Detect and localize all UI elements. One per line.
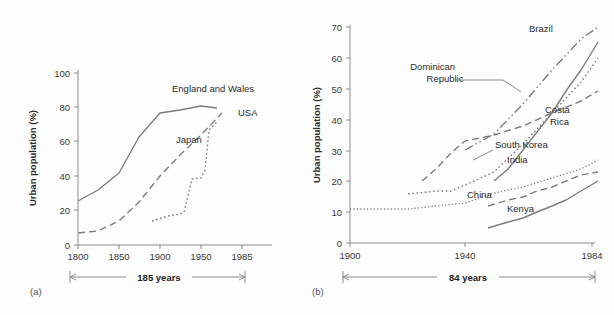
- costa-rica-word-1: Costa: [545, 104, 571, 115]
- leader-south-korea: [473, 150, 493, 160]
- series-label-japan: Japan: [176, 134, 202, 145]
- series-label-india: India: [507, 154, 528, 165]
- panel-a-label: (a): [30, 286, 42, 297]
- panel-b: 70 60 50 40 30 20 10 0 1900 1940 1984 Ur…: [307, 0, 614, 315]
- panel-a-ytick-0: 0: [65, 240, 70, 251]
- series-label-brazil: Brazil: [529, 23, 553, 34]
- series-line-kenya: [488, 181, 598, 228]
- panel-b-xtick-1984: 1984: [581, 250, 602, 261]
- panel-b-y-axis-title: Urban population (%): [311, 87, 322, 183]
- series-label-south-korea: South Korea: [495, 139, 549, 150]
- panel-b-ytick-70: 70: [331, 22, 342, 33]
- panel-a-xtick-1985: 1985: [231, 251, 252, 262]
- panel-b-ytick-30: 30: [331, 146, 342, 157]
- panel-b-ytick-20: 20: [331, 176, 342, 187]
- figure-urban-population: 100 80 60 40 20 0 1800 1850 1900 1950 19…: [0, 0, 614, 315]
- panel-b-label: (b): [312, 286, 324, 297]
- costa-rica-word-2: Rica: [550, 116, 570, 127]
- series-label-dominican-republic: Dominican Republic: [410, 61, 463, 84]
- panel-b-span-indicator: 84 years: [343, 270, 595, 284]
- panel-b-y-ticks: 70 60 50 40 30 20 10 0: [331, 22, 350, 249]
- leader-dominican-republic: [455, 80, 521, 92]
- series-label-england-and-wales: England and Wales: [172, 83, 254, 94]
- series-line-england-and-wales: [78, 106, 217, 201]
- panel-a-xtick-1950: 1950: [190, 251, 211, 262]
- panel-b-ytick-50: 50: [331, 84, 342, 95]
- series-line-usa: [78, 113, 222, 233]
- panel-a-xtick-1900: 1900: [149, 251, 170, 262]
- panel-a: 100 80 60 40 20 0 1800 1850 1900 1950 19…: [0, 0, 307, 315]
- series-label-china: China: [467, 189, 493, 200]
- panel-a-ytick-100: 100: [54, 68, 70, 79]
- panel-b-ytick-60: 60: [331, 53, 342, 64]
- panel-b-ytick-40: 40: [331, 115, 342, 126]
- panel-a-span-indicator: 185 years: [70, 270, 245, 284]
- panel-a-ytick-60: 60: [59, 136, 70, 147]
- series-line-brazil: [465, 27, 598, 150]
- panel-b-xtick-1900: 1900: [339, 250, 360, 261]
- dominican-republic-word-1: Dominican: [410, 61, 455, 72]
- panel-b-x-ticks: 1900 1940 1984: [339, 243, 602, 261]
- panel-a-xtick-1800: 1800: [67, 251, 88, 262]
- panel-b-ytick-10: 10: [331, 207, 342, 218]
- panel-a-x-ticks: 1800 1850 1900 1950 1985: [67, 245, 252, 262]
- panel-a-y-ticks: 100 80 60 40 20 0: [54, 68, 78, 251]
- panel-a-xtick-1850: 1850: [108, 251, 129, 262]
- panel-b-ytick-0: 0: [337, 238, 342, 249]
- panel-b-span-label: 84 years: [449, 272, 487, 283]
- panel-a-ytick-80: 80: [59, 102, 70, 113]
- panel-b-xtick-1940: 1940: [454, 250, 475, 261]
- series-line-china: [488, 172, 598, 206]
- panel-a-span-label: 185 years: [137, 272, 180, 283]
- panel-a-ytick-40: 40: [59, 171, 70, 182]
- panel-a-y-axis-title: Urban population (%): [27, 110, 38, 206]
- series-label-kenya: Kenya: [507, 203, 535, 214]
- dominican-republic-word-2: Republic: [427, 73, 464, 84]
- series-label-usa: USA: [238, 107, 258, 118]
- panel-a-ytick-20: 20: [59, 205, 70, 216]
